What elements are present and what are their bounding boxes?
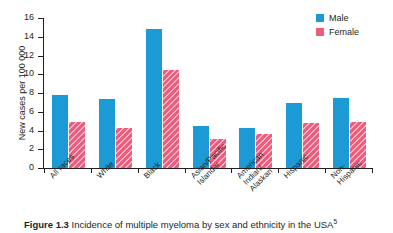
caption-reference-marker: 5	[333, 218, 337, 225]
y-axis-tick-label: 0	[12, 163, 34, 172]
x-axis-tick	[138, 168, 139, 173]
x-axis-tick	[325, 168, 326, 173]
y-axis-tick	[38, 18, 43, 19]
caption-figure-number: Figure 1.3	[24, 219, 69, 230]
x-axis-tick	[372, 168, 373, 173]
figure-container: MaleFemale New cases per 100 000 0246810…	[0, 0, 393, 233]
bar-male[interactable]	[146, 29, 162, 168]
y-axis-tick	[38, 56, 43, 57]
y-axis-tick	[38, 37, 43, 38]
x-axis-tick	[185, 168, 186, 173]
y-axis-tick	[38, 112, 43, 113]
y-axis-tick-label: 16	[12, 13, 34, 22]
y-axis-tick	[38, 131, 43, 132]
y-axis-tick-label: 2	[12, 144, 34, 153]
y-axis-tick	[38, 168, 43, 169]
y-axis-tick-label: 6	[12, 107, 34, 116]
y-axis-tick-label: 4	[12, 126, 34, 135]
y-axis-tick	[38, 93, 43, 94]
caption-body: Incidence of multiple myeloma by sex and…	[72, 219, 334, 230]
y-axis-tick-label: 14	[12, 32, 34, 41]
y-axis-tick	[38, 74, 43, 75]
y-axis-tick	[38, 149, 43, 150]
x-axis-tick	[44, 168, 45, 173]
y-axis-tick-label: 10	[12, 69, 34, 78]
x-axis-tick	[231, 168, 232, 173]
y-axis-tick-label: 8	[12, 88, 34, 97]
y-axis-tick-label: 12	[12, 51, 34, 60]
x-axis-tick	[91, 168, 92, 173]
figure-caption: Figure 1.3 Incidence of multiple myeloma…	[24, 216, 384, 231]
